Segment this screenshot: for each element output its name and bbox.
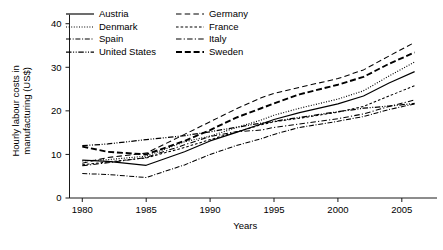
legend-item-austria[interactable]: Austria xyxy=(66,8,166,21)
series-line-united-states xyxy=(82,103,414,145)
legend-label: United States xyxy=(99,46,156,59)
chart-figure: 010203040198019851990199520002005 YearsH… xyxy=(0,0,443,250)
y-axis-title: Hourly labour costs inmanufacturing (US$… xyxy=(10,65,33,156)
x-tick-label: 1995 xyxy=(263,204,284,215)
legend-item-denmark[interactable]: Denmark xyxy=(66,21,166,34)
y-tick-label: 0 xyxy=(56,192,61,203)
x-tick-label: 1990 xyxy=(200,204,221,215)
legend-label: Italy xyxy=(209,33,226,46)
legend-label: Denmark xyxy=(99,21,138,34)
legend-line-swatch-icon xyxy=(176,22,204,32)
legend-label: Spain xyxy=(99,33,123,46)
legend-line-swatch-icon xyxy=(66,9,94,19)
legend-line-swatch-icon xyxy=(176,47,204,57)
x-tick-label: 1980 xyxy=(72,204,93,215)
y-tick-label: 30 xyxy=(51,62,62,73)
legend-item-sweden[interactable]: Sweden xyxy=(176,46,258,59)
y-axis-title-line1: Hourly labour costs in xyxy=(10,65,21,156)
y-tick-label: 20 xyxy=(51,105,62,116)
data-series-group xyxy=(82,42,414,177)
y-axis-title-line2: manufacturing (US$) xyxy=(21,67,32,155)
legend-line-swatch-icon xyxy=(66,34,94,44)
x-tick-label: 2000 xyxy=(327,204,348,215)
x-tick-label: 1985 xyxy=(136,204,157,215)
legend-label: Germany xyxy=(209,8,248,21)
legend-label: Austria xyxy=(99,8,129,21)
legend-line-swatch-icon xyxy=(176,34,204,44)
series-line-austria xyxy=(82,72,414,166)
legend-item-france[interactable]: France xyxy=(176,21,258,34)
legend-line-swatch-icon xyxy=(66,22,94,32)
legend-line-swatch-icon xyxy=(176,9,204,19)
y-tick-label: 10 xyxy=(51,149,62,160)
legend-item-germany[interactable]: Germany xyxy=(176,8,258,21)
legend-line-swatch-icon xyxy=(66,47,94,57)
series-line-germany xyxy=(82,42,414,163)
series-line-italy xyxy=(82,100,414,166)
x-tick-label: 2005 xyxy=(391,204,412,215)
series-line-denmark xyxy=(82,62,414,161)
legend-item-italy[interactable]: Italy xyxy=(176,33,258,46)
x-axis-title: Years xyxy=(233,220,257,231)
legend-label: Sweden xyxy=(209,46,243,59)
legend-label: France xyxy=(209,21,239,34)
legend-item-spain[interactable]: Spain xyxy=(66,33,166,46)
chart-legend: AustriaGermanyDenmarkFranceSpainItalyUni… xyxy=(66,8,258,58)
legend-item-united-states[interactable]: United States xyxy=(66,46,166,59)
y-tick-label: 40 xyxy=(51,18,62,29)
